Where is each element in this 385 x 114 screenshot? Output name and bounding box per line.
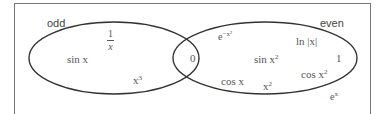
even-item-cos: cos x: [221, 76, 244, 87]
odd-item-reciprocal: 1 x: [107, 28, 114, 52]
sinsq-base: sin x: [254, 53, 275, 65]
even-item-square: x2: [263, 81, 272, 92]
cube-exponent: 3: [139, 74, 143, 82]
cossq-base: cos x: [301, 68, 324, 80]
even-set-label: even: [320, 18, 344, 29]
intersection-item-zero: 0: [190, 53, 196, 64]
even-item-gaussian: e−x²: [218, 31, 232, 42]
odd-item-sin: sin x: [67, 54, 88, 65]
frac-numerator: 1: [108, 29, 113, 39]
sinsq-exponent: 2: [275, 53, 279, 61]
gauss-exponent: −x²: [222, 30, 232, 38]
outside-item-exp: ex: [330, 91, 338, 102]
odd-set-label: odd: [47, 18, 65, 29]
frac-denominator: x: [108, 42, 112, 52]
even-item-sin-sq: sin x2: [254, 54, 279, 65]
square-exponent: 2: [269, 80, 273, 88]
even-item-ln: ln |x|: [296, 36, 317, 47]
even-item-cos-sq: cos x2: [301, 69, 327, 80]
exp-exponent: x: [334, 90, 338, 98]
even-item-one: 1: [336, 53, 342, 64]
odd-item-cube: x3: [133, 75, 142, 86]
cossq-exponent: 2: [324, 68, 328, 76]
